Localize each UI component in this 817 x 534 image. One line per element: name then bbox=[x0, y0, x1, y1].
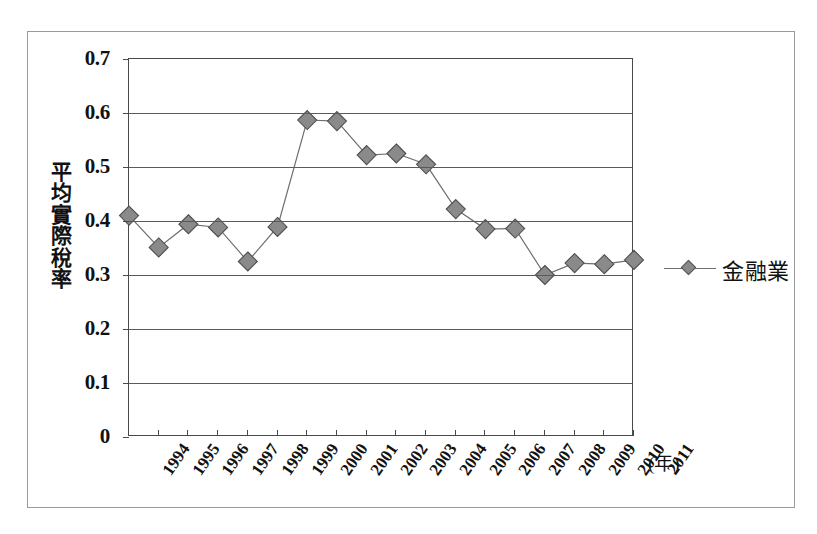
x-axis-tick-label: 2007 bbox=[545, 440, 581, 479]
data-point-marker bbox=[179, 215, 198, 234]
x-axis-tickmark bbox=[247, 430, 248, 436]
legend-diamond-icon bbox=[681, 260, 697, 276]
x-axis-title: (年) bbox=[648, 448, 680, 475]
data-point-marker bbox=[565, 254, 584, 273]
gridline bbox=[129, 383, 632, 384]
y-axis-tick-label: 0.2 bbox=[85, 316, 110, 341]
x-axis-tickmark bbox=[336, 430, 337, 436]
data-point-marker bbox=[476, 220, 495, 239]
x-axis-tickmark bbox=[366, 430, 367, 436]
legend-label: 金融業 bbox=[716, 253, 790, 285]
chart-figure: 平均實際稅率 00.10.20.30.40.50.60.7 1994199519… bbox=[0, 0, 817, 534]
x-axis-tickmark bbox=[484, 430, 485, 436]
y-axis-tick-label: 0.6 bbox=[85, 100, 110, 125]
plot-area bbox=[128, 58, 633, 436]
x-axis-tick-label: 1998 bbox=[277, 440, 313, 479]
y-axis-tick-label: 0.5 bbox=[85, 154, 110, 179]
y-axis-tickmark bbox=[123, 59, 129, 60]
y-axis-tick-label: 0.7 bbox=[85, 46, 110, 71]
data-point-marker bbox=[446, 200, 465, 219]
legend-marker bbox=[664, 259, 716, 279]
x-axis-tickmark bbox=[514, 430, 515, 436]
x-axis-tickmark bbox=[425, 430, 426, 436]
x-axis-tickmark bbox=[277, 430, 278, 436]
x-axis-tickmark bbox=[544, 430, 545, 436]
x-axis-tickmark bbox=[603, 430, 604, 436]
x-axis-tickmark bbox=[395, 430, 396, 436]
series-line bbox=[129, 120, 634, 275]
data-point-marker bbox=[327, 112, 346, 131]
x-axis-tick-label: 2008 bbox=[574, 440, 610, 479]
data-point-marker bbox=[387, 144, 406, 163]
data-point-marker bbox=[357, 146, 376, 165]
x-axis-ticklabels: 1994199519961997199819992000200120022003… bbox=[128, 436, 633, 516]
y-axis-tick-label: 0.3 bbox=[85, 262, 110, 287]
y-axis-tick-label: 0.4 bbox=[85, 208, 110, 233]
gridline bbox=[129, 113, 632, 114]
y-axis-tick-label: 0.1 bbox=[85, 370, 110, 395]
gridline bbox=[129, 329, 632, 330]
x-axis-tickmark bbox=[217, 430, 218, 436]
x-axis-tickmark bbox=[455, 430, 456, 436]
y-axis-tick-label: 0 bbox=[100, 424, 110, 449]
series-金融業 bbox=[129, 59, 634, 437]
x-axis-tick-label: 1995 bbox=[188, 440, 224, 479]
x-axis-tickmark bbox=[187, 430, 188, 436]
gridline bbox=[129, 167, 632, 168]
x-axis-tickmark bbox=[158, 430, 159, 436]
x-axis-tickmark bbox=[633, 430, 634, 436]
x-axis-tick-label: 1997 bbox=[248, 440, 284, 479]
gridline bbox=[129, 275, 632, 276]
y-axis-ticklabels: 00.10.20.30.40.50.60.7 bbox=[60, 58, 120, 436]
x-axis-tick-label: 2005 bbox=[485, 440, 521, 479]
data-point-marker bbox=[417, 155, 436, 174]
data-point-marker bbox=[595, 255, 614, 274]
x-axis-tick-label: 2003 bbox=[426, 440, 462, 479]
x-axis-tick-label: 2002 bbox=[396, 440, 432, 479]
x-axis-tick-label: 2006 bbox=[515, 440, 551, 479]
x-axis-tickmark bbox=[574, 430, 575, 436]
x-axis-tick-label: 1996 bbox=[218, 440, 254, 479]
x-axis-tick-label: 1994 bbox=[158, 440, 194, 479]
gridline bbox=[129, 221, 632, 222]
x-axis-tickmark bbox=[128, 430, 129, 436]
x-axis-tick-label: 2004 bbox=[456, 440, 492, 479]
x-axis-tickmark bbox=[306, 430, 307, 436]
chart-legend: 金融業 bbox=[664, 253, 790, 285]
data-point-marker bbox=[238, 252, 257, 271]
x-axis-tick-label: 2001 bbox=[366, 440, 402, 479]
x-axis-tick-label: 1999 bbox=[307, 440, 343, 479]
x-axis-tick-label: 2000 bbox=[337, 440, 373, 479]
